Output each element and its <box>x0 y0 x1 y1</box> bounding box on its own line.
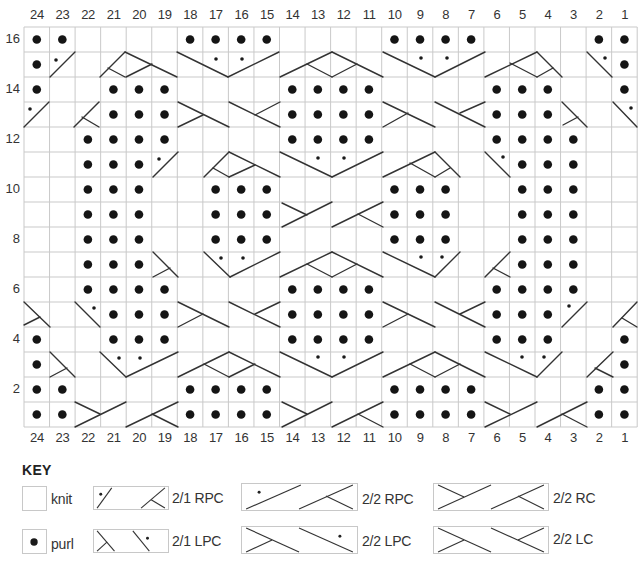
purl-stitch-dot <box>135 285 144 294</box>
purl-stitch-dot <box>595 35 604 44</box>
purl-stitch-dot <box>339 85 348 94</box>
purl-stitch-dot <box>416 35 425 44</box>
purl-stitch-dot <box>84 160 93 169</box>
purl-stitch-dot <box>135 160 144 169</box>
purl-stitch-dot <box>518 110 527 119</box>
purl-stitch-dot <box>339 285 348 294</box>
key-label-2-2-lc: 2/2 LC <box>553 531 593 547</box>
purl-stitch-dot <box>211 35 220 44</box>
column-label-top: 4 <box>535 7 561 22</box>
purl-stitch-dot <box>288 85 297 94</box>
row-label: 4 <box>2 331 20 346</box>
key-label-2-2-rpc: 2/2 RPC <box>362 491 414 507</box>
purl-stitch-dot <box>441 35 450 44</box>
purl-stitch-dot <box>543 285 552 294</box>
cable-purl-marker <box>157 157 161 161</box>
cable-purl-marker <box>419 255 423 259</box>
purl-stitch-dot <box>135 85 144 94</box>
purl-symbol-icon <box>22 529 47 554</box>
purl-stitch-dot <box>518 310 527 319</box>
purl-stitch-dot <box>211 385 220 394</box>
column-label-top: 22 <box>75 7 101 22</box>
lc-2-2-symbol-icon <box>433 526 549 554</box>
rpc-2-2-symbol-icon <box>241 483 358 511</box>
purl-stitch-dot <box>441 385 450 394</box>
purl-stitch-dot <box>314 135 323 144</box>
purl-stitch-dot <box>339 335 348 344</box>
purl-stitch-dot <box>365 335 374 344</box>
purl-stitch-dot <box>84 135 93 144</box>
purl-stitch-dot <box>32 35 41 44</box>
key-title: KEY <box>22 462 52 478</box>
key-label-2-2-lpc: 2/2 LPC <box>362 533 411 549</box>
purl-stitch-dot <box>492 135 501 144</box>
row-label: 12 <box>2 131 20 146</box>
purl-stitch-dot <box>160 310 169 319</box>
cable-purl-marker <box>138 356 142 360</box>
column-label-top: 3 <box>561 7 587 22</box>
column-label-top: 16 <box>228 7 254 22</box>
purl-stitch-dot <box>441 185 450 194</box>
purl-stitch-dot <box>518 85 527 94</box>
purl-stitch-dot <box>416 235 425 244</box>
purl-stitch-dot <box>58 35 67 44</box>
purl-stitch-dot <box>390 185 399 194</box>
purl-stitch-dot <box>84 235 93 244</box>
cable-purl-marker <box>92 306 96 310</box>
purl-stitch-dot <box>211 210 220 219</box>
purl-stitch-dot <box>32 85 41 94</box>
purl-stitch-dot <box>262 35 271 44</box>
cable-purl-marker <box>542 355 546 359</box>
column-label-bottom: 22 <box>75 430 101 445</box>
purl-stitch-dot <box>135 135 144 144</box>
key-label-knit: knit <box>51 491 72 507</box>
purl-stitch-dot <box>58 385 67 394</box>
cable-purl-marker <box>316 355 320 359</box>
purl-stitch-dot <box>569 210 578 219</box>
row-label: 10 <box>2 181 20 196</box>
key-label-2-2-rc: 2/2 RC <box>553 490 595 506</box>
purl-stitch-dot <box>365 310 374 319</box>
purl-stitch-dot <box>314 85 323 94</box>
purl-stitch-dot <box>518 160 527 169</box>
purl-stitch-dot <box>569 235 578 244</box>
purl-stitch-dot <box>32 410 41 419</box>
purl-stitch-dot <box>160 135 169 144</box>
purl-stitch-dot <box>339 110 348 119</box>
purl-stitch-dot <box>32 385 41 394</box>
purl-stitch-dot <box>84 260 93 269</box>
column-label-top: 20 <box>126 7 152 22</box>
purl-stitch-dot <box>109 235 118 244</box>
purl-stitch-dot <box>569 185 578 194</box>
purl-stitch-dot <box>543 160 552 169</box>
column-label-top: 13 <box>305 7 331 22</box>
purl-stitch-dot <box>543 85 552 94</box>
purl-stitch-dot <box>543 335 552 344</box>
purl-stitch-dot <box>109 160 118 169</box>
column-label-bottom: 15 <box>254 430 280 445</box>
purl-stitch-dot <box>211 235 220 244</box>
cable-purl-marker <box>603 56 607 60</box>
purl-stitch-dot <box>416 385 425 394</box>
column-label-top: 6 <box>484 7 510 22</box>
purl-stitch-dot <box>620 85 629 94</box>
purl-stitch-dot <box>109 135 118 144</box>
purl-stitch-dot <box>365 135 374 144</box>
column-label-top: 7 <box>458 7 484 22</box>
purl-stitch-dot <box>237 235 246 244</box>
purl-stitch-dot <box>620 410 629 419</box>
column-label-bottom: 19 <box>152 430 178 445</box>
purl-stitch-dot <box>109 185 118 194</box>
column-label-bottom: 8 <box>433 430 459 445</box>
key-label-purl: purl <box>51 536 74 552</box>
column-label-top: 21 <box>101 7 127 22</box>
column-label-top: 9 <box>407 7 433 22</box>
purl-stitch-dot <box>492 85 501 94</box>
column-label-top: 11 <box>356 7 382 22</box>
column-label-top: 14 <box>280 7 306 22</box>
purl-stitch-dot <box>262 385 271 394</box>
purl-stitch-dot <box>339 310 348 319</box>
column-label-bottom: 17 <box>203 430 229 445</box>
purl-stitch-dot <box>186 35 195 44</box>
purl-stitch-dot <box>84 285 93 294</box>
